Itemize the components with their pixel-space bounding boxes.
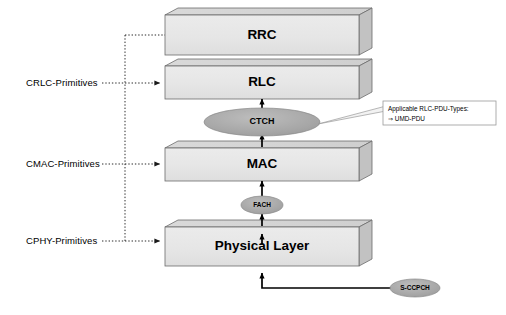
layer-label-rlc: RLC <box>165 74 359 89</box>
arrow-sccpch-to-phy <box>262 273 392 288</box>
callout-line-1: Applicable RLC-PDU-Types: <box>388 104 469 114</box>
callout-line-2: ⇒ UMD-PDU <box>388 114 425 124</box>
callout-leader <box>318 106 386 124</box>
layer-label-phy: Physical Layer <box>165 238 359 253</box>
channel-label-sccpch: S-CCPCH <box>390 284 440 291</box>
layer-label-rrc: RRC <box>165 27 359 42</box>
primitive-label-cphy: CPHY-Primitives <box>26 235 97 246</box>
layer-label-mac: MAC <box>165 156 359 171</box>
primitive-label-cmac: CMAC-Primitives <box>26 158 100 169</box>
channel-label-ctch: CTCH <box>204 116 320 126</box>
channel-label-fach: FACH <box>241 201 283 208</box>
protocol-stack-diagram: CRLC-Primitives CMAC-Primitives CPHY-Pri… <box>0 0 506 315</box>
primitive-label-crlc: CRLC-Primitives <box>26 77 98 88</box>
